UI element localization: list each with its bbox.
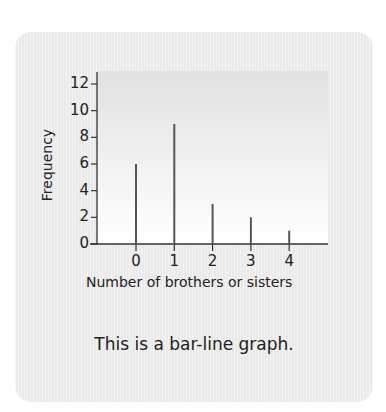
y-tick-label: 0: [59, 234, 89, 252]
x-tick-label: 4: [279, 252, 299, 270]
y-tick-label: 12: [59, 74, 89, 92]
y-tick-label: 2: [59, 207, 89, 225]
caption: This is a bar-line graph.: [15, 334, 373, 354]
x-axis-label: Number of brothers or sisters: [86, 274, 292, 290]
y-tick-label: 6: [59, 154, 89, 172]
y-tick-label: 10: [59, 101, 89, 119]
x-tick-label: 1: [164, 252, 184, 270]
axes: [90, 72, 328, 244]
x-tick-label: 3: [241, 252, 261, 270]
y-tick-label: 4: [59, 181, 89, 199]
x-tick-label: 0: [126, 252, 146, 270]
bars: [136, 124, 289, 244]
y-ticks: [91, 84, 97, 244]
y-axis-label: Frequency: [39, 129, 55, 201]
y-tick-label: 8: [59, 127, 89, 145]
x-tick-label: 2: [203, 252, 223, 270]
x-ticks: [136, 244, 289, 251]
